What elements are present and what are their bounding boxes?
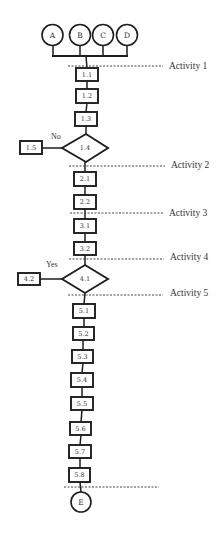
process-box-label: 3.2	[80, 245, 90, 253]
process-box-5-2: 5.2	[73, 327, 94, 340]
process-box-label: 5.6	[75, 425, 85, 433]
start-node-d: D	[117, 25, 138, 46]
process-box-3-1: 3.1	[74, 219, 96, 233]
activity-2-label: Activity 2	[171, 160, 210, 170]
process-box-5-5: 5.5	[71, 397, 93, 410]
start-connector	[52, 46, 128, 68]
decision-label: 1.4	[80, 144, 90, 152]
process-box-5-8: 5.8	[69, 468, 90, 482]
start-node-a: A	[42, 25, 63, 46]
process-box-label: 4.2	[24, 275, 34, 283]
process-box-label: 2.1	[80, 175, 90, 183]
process-box-label: 1.3	[81, 115, 91, 123]
process-box-label: 5.2	[78, 330, 88, 338]
start-node-c: C	[93, 25, 114, 46]
activity-3-label: Activity 3	[169, 208, 208, 218]
end-node-e-label: E	[78, 498, 83, 507]
branch-label-no: No	[51, 132, 61, 141]
process-box-label: 5.8	[74, 471, 84, 479]
process-box-5-4: 5.4	[71, 373, 93, 387]
process-box-label: 5.5	[77, 400, 87, 408]
process-box-label: 1.1	[82, 71, 92, 79]
process-box-4-2: 4.2	[18, 273, 40, 285]
process-box-1-1: 1.1	[76, 68, 98, 81]
process-box-5-1: 5.1	[73, 304, 95, 318]
process-box-5-3: 5.3	[72, 350, 93, 363]
start-node-b-label: B	[77, 31, 83, 40]
process-box-3-2: 3.2	[74, 242, 96, 255]
decision-diamond-1-4: 1.4	[62, 134, 108, 162]
process-box-label: 1.2	[82, 92, 92, 100]
process-box-1-2: 1.2	[76, 89, 98, 103]
process-box-label: 2.2	[80, 198, 90, 206]
activity-4-label: Activity 4	[170, 252, 209, 262]
decision-label: 4.1	[80, 275, 90, 283]
end-node-e: E	[71, 492, 91, 512]
activity-1-label: Activity 1	[169, 61, 208, 71]
process-box-5-6: 5.6	[70, 422, 91, 435]
start-node-b: B	[70, 25, 91, 46]
start-node-a-label: A	[49, 31, 56, 40]
process-box-label: 3.1	[80, 222, 90, 230]
process-box-label: 5.3	[77, 353, 87, 361]
process-box-2-1: 2.1	[74, 172, 96, 186]
decision-diamond-4-1: 4.1	[62, 265, 108, 293]
flowchart-diagram: Activity 1 Activity 2 Activity 3 Activit…	[0, 0, 218, 534]
process-box-1-5: 1.5	[20, 141, 42, 154]
process-box-5-7: 5.7	[69, 445, 91, 458]
branch-label-yes: Yes	[46, 260, 58, 269]
start-node-d-label: D	[124, 31, 130, 40]
process-box-2-2: 2.2	[74, 195, 96, 209]
activity-5-label: Activity 5	[170, 288, 209, 298]
process-box-label: 5.1	[79, 307, 89, 315]
process-box-1-3: 1.3	[75, 112, 97, 126]
process-box-label: 1.5	[26, 144, 36, 152]
process-box-label: 5.7	[75, 448, 85, 456]
start-node-c-label: C	[100, 31, 106, 40]
process-box-label: 5.4	[77, 376, 87, 384]
